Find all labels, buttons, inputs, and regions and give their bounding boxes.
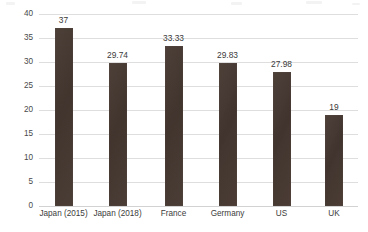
bar[interactable] [325, 115, 343, 206]
scan-artifact [352, 3, 360, 5]
scan-artifact [132, 1, 146, 4]
bar[interactable] [219, 63, 237, 206]
bar[interactable] [273, 72, 291, 206]
bar[interactable] [109, 63, 127, 206]
x-axis-category-label: Japan (2015) [33, 210, 95, 218]
x-axis-category-label: Germany [197, 210, 259, 218]
gridline [39, 14, 358, 15]
gridline [39, 134, 358, 135]
gridline [39, 86, 358, 87]
gridline [39, 62, 358, 63]
x-axis-category-label: France [143, 210, 205, 218]
bar-value-label: 29.74 [95, 51, 141, 59]
bar-value-label: 33.33 [151, 34, 197, 42]
y-axis-tick-label: 25 [0, 82, 33, 90]
x-axis-category-label: UK [303, 210, 365, 218]
gridline [39, 38, 358, 39]
bar-value-label: 29.83 [205, 51, 251, 59]
bar[interactable] [55, 28, 73, 206]
x-axis-category-label: Japan (2018) [87, 210, 149, 218]
gridline [39, 182, 358, 183]
bar-value-label: 37 [41, 16, 87, 24]
scan-artifact [231, 2, 242, 5]
bar-chart: Corporate effective tax rate (%) 0510152… [0, 0, 368, 232]
y-axis-tick-label: 10 [0, 154, 33, 162]
scan-artifact [306, 1, 322, 4]
y-axis-tick-label: 5 [0, 178, 33, 186]
bar-value-label: 19 [311, 103, 357, 111]
y-axis-tick-label: 20 [0, 106, 33, 114]
y-axis-tick-label: 15 [0, 130, 33, 138]
y-axis-tick-label: 35 [0, 34, 33, 42]
scan-artifact [6, 2, 15, 5]
y-axis-tick-label: 0 [0, 202, 33, 210]
gridline [39, 158, 358, 159]
y-axis-tick-label: 30 [0, 58, 33, 66]
bar[interactable] [165, 46, 183, 206]
y-axis-tick-label: 40 [0, 10, 33, 18]
bar-value-label: 27.98 [259, 60, 305, 68]
gridline [39, 206, 358, 207]
